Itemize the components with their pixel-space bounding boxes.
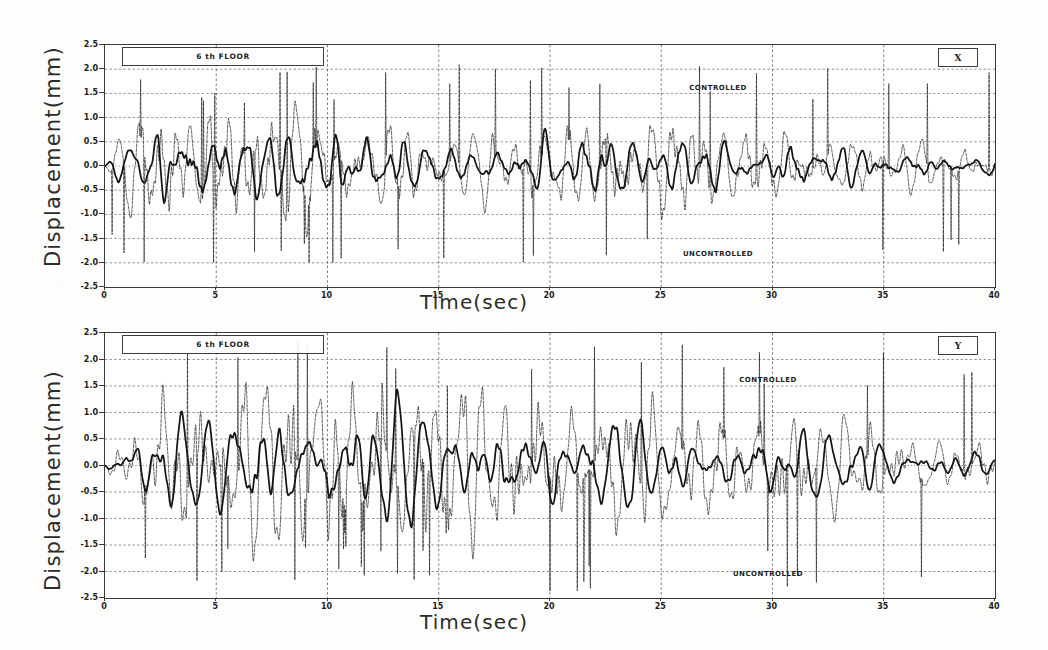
x-tick-label: 20: [543, 602, 554, 611]
panel-y-y-axis-label: Displacement(mm): [41, 381, 65, 591]
x-tick-label: 5: [212, 291, 218, 300]
panel-y-plot-area: [104, 332, 996, 599]
panel-y-annotation-uncontrolled: UNCONTROLLED: [733, 570, 803, 578]
panel-x-y-axis-label: Displacement(mm): [41, 57, 65, 267]
y-tick-label: -2.0: [74, 257, 98, 266]
y-tick-label: -0.5: [74, 185, 98, 194]
y-tick-label: -1.0: [74, 513, 98, 522]
panel-x-plot-area: [104, 44, 996, 288]
panel-y: Displacement(mm) 2.52.01.51.00.50.0-0.5-…: [0, 318, 1048, 648]
panel-x-direction-label: X: [938, 48, 978, 67]
x-tick-label: 0: [101, 291, 107, 300]
y-tick-label: 1.5: [74, 88, 98, 97]
y-tick-label: 1.5: [74, 381, 98, 390]
x-tick-label: 0: [101, 602, 107, 611]
x-tick-label: 30: [766, 291, 777, 300]
y-tick-label: 0.0: [74, 161, 98, 170]
panel-y-direction-label: Y: [938, 336, 978, 355]
y-tick-label: 1.0: [74, 112, 98, 121]
panel-x-annotation-uncontrolled: UNCONTROLLED: [683, 250, 753, 258]
x-tick-label: 25: [655, 602, 666, 611]
panel-x-traces: [105, 45, 995, 287]
y-tick-label: 0.5: [74, 434, 98, 443]
y-tick-label: -2.5: [74, 593, 98, 602]
panel-x-x-axis-label: Time(sec): [420, 290, 528, 314]
y-tick-label: -1.0: [74, 209, 98, 218]
x-tick-label: 30: [766, 602, 777, 611]
y-tick-label: -1.5: [74, 233, 98, 242]
x-tick-label: 35: [877, 602, 888, 611]
x-tick-label: 10: [321, 602, 332, 611]
x-tick-label: 10: [321, 291, 332, 300]
y-tick-label: 2.5: [74, 328, 98, 337]
y-tick-label: -1.5: [74, 540, 98, 549]
y-tick-label: 0.5: [74, 136, 98, 145]
x-tick-label: 5: [212, 602, 218, 611]
y-tick-label: 2.5: [74, 40, 98, 49]
y-tick-label: -2.0: [74, 566, 98, 575]
x-tick-label: 35: [877, 291, 888, 300]
y-tick-label: -0.5: [74, 487, 98, 496]
x-tick-label: 40: [988, 291, 999, 300]
panel-x-annotation-controlled: CONTROLLED: [689, 84, 747, 92]
panel-x: Displacement(mm) 2.52.01.51.00.50.0-0.5-…: [0, 0, 1048, 320]
panel-y-annotation-controlled: CONTROLLED: [739, 376, 797, 384]
figure-page: Displacement(mm) 2.52.01.51.00.50.0-0.5-…: [0, 0, 1048, 650]
panel-y-x-axis-label: Time(sec): [420, 610, 528, 634]
x-tick-label: 25: [655, 291, 666, 300]
y-tick-label: 1.0: [74, 407, 98, 416]
y-tick-label: 2.0: [74, 64, 98, 73]
y-tick-label: -2.5: [74, 282, 98, 291]
panel-x-floor-label: 6 th FLOOR: [122, 47, 324, 66]
x-tick-label: 40: [988, 602, 999, 611]
y-tick-label: 2.0: [74, 354, 98, 363]
y-tick-label: 0.0: [74, 460, 98, 469]
panel-y-traces: [105, 333, 995, 598]
panel-y-floor-label: 6 th FLOOR: [122, 335, 324, 354]
x-tick-label: 20: [543, 291, 554, 300]
